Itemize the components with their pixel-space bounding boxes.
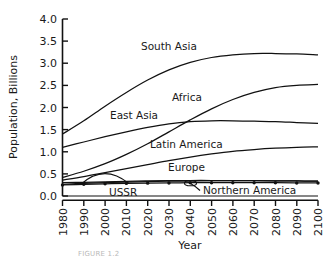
series-label-ussr: USSR [109, 186, 137, 198]
y-axis-ticks [63, 19, 69, 196]
y-tick-labels: 4.0 3.5 3.0 2.5 2.0 1.5 1.0 0.5 0.0 [40, 13, 58, 203]
y-tick-label: 3.5 [40, 35, 58, 48]
figure-population-projection: Population, Billions 4.0 3.5 3.0 2.5 2.0… [0, 0, 333, 259]
y-tick-label: 0.5 [40, 168, 58, 181]
x-tick-label: 2080 [270, 208, 283, 236]
x-tick-label: 2090 [291, 208, 304, 236]
y-axis-title: Population, Billions [7, 55, 20, 159]
x-tick-label: 1990 [78, 208, 91, 236]
data-point-marker [146, 181, 149, 184]
data-point-marker [316, 181, 319, 184]
figure-caption: FIGURE 1.2 [78, 250, 328, 259]
population-line-chart: Population, Billions 4.0 3.5 3.0 2.5 2.0… [0, 0, 333, 259]
x-tick-label: 2040 [184, 208, 197, 236]
x-tick-label: 2010 [120, 208, 133, 236]
series-label-latin-america: Latin America [150, 138, 223, 150]
data-point-marker [61, 183, 64, 186]
x-axis-ticks [63, 200, 319, 206]
x-tick-label: 2060 [227, 208, 240, 236]
y-tick-label: 1.0 [40, 146, 58, 159]
x-tick-label: 2070 [248, 208, 261, 236]
series-label-south-asia: South Asia [141, 40, 197, 52]
series-label-east-asia: East Asia [110, 109, 158, 121]
series-label-europe: Europe [168, 161, 205, 173]
x-tick-label: 2020 [142, 208, 155, 236]
x-tick-label: 2000 [99, 208, 112, 236]
y-tick-label: 3.0 [40, 57, 58, 70]
x-tick-label: 2050 [206, 208, 219, 236]
data-point-marker [103, 182, 106, 185]
y-tick-label: 1.5 [40, 124, 58, 137]
data-point-marker [167, 181, 170, 184]
x-tick-labels: 1980 1990 2000 2010 2020 2030 2040 2050 … [57, 208, 326, 236]
y-tick-label: 0.0 [40, 190, 58, 203]
x-tick-label: 2100 [312, 208, 325, 236]
y-tick-label: 2.0 [40, 102, 58, 115]
y-tick-label: 2.5 [40, 79, 58, 92]
y-tick-label: 4.0 [40, 13, 58, 26]
series-label-africa: Africa [172, 91, 202, 103]
x-tick-label: 1980 [57, 208, 70, 236]
x-tick-label: 2030 [163, 208, 176, 236]
series-label-northern-america: Northern America [203, 184, 296, 196]
